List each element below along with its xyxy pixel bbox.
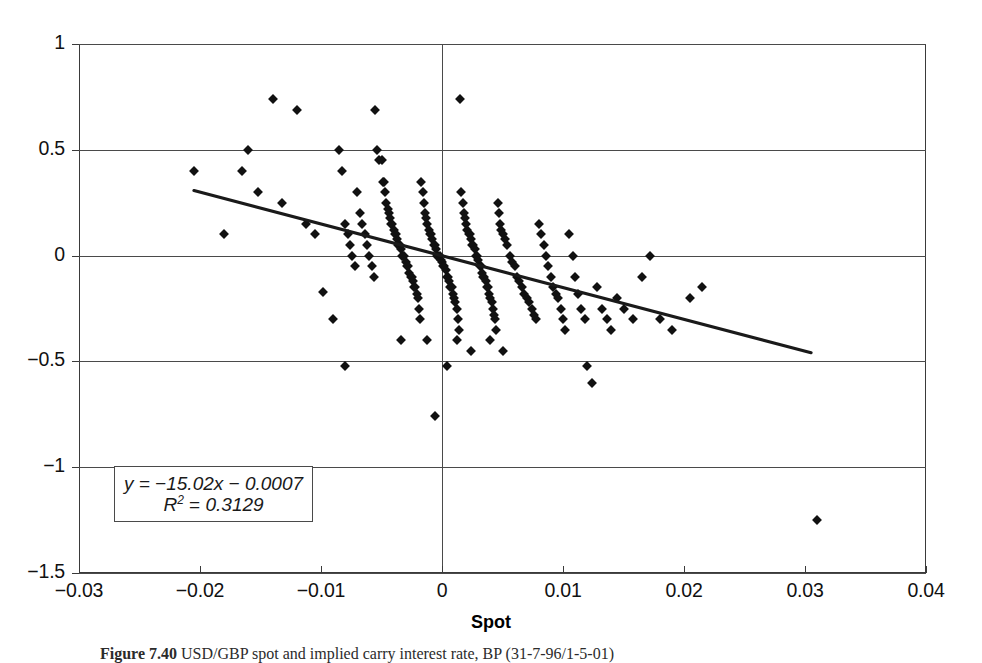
y-tick-label: 0 bbox=[1, 243, 65, 266]
x-tick-label: 0.03 bbox=[760, 579, 850, 602]
y-axis-tick bbox=[72, 361, 79, 362]
figure-container: −0.03−0.02−0.0100.010.020.030.04 10.50−0… bbox=[0, 0, 982, 663]
gridline-y bbox=[79, 573, 926, 574]
r-squared-line: R2 = 0.3129 bbox=[163, 494, 263, 516]
x-tick-label: 0.04 bbox=[881, 579, 971, 602]
y-axis-tick bbox=[72, 150, 79, 151]
x-axis-tick bbox=[926, 566, 927, 573]
y-tick-label: −1 bbox=[1, 454, 65, 477]
y-tick-label: 1 bbox=[1, 31, 65, 54]
x-tick-label: 0.01 bbox=[518, 579, 608, 602]
y-axis-tick bbox=[72, 467, 79, 468]
x-tick-label: −0.01 bbox=[276, 579, 366, 602]
regression-equation-line: y = −15.02x − 0.0007 bbox=[124, 473, 303, 494]
x-tick-label: 0.02 bbox=[639, 579, 729, 602]
x-axis-title: Spot bbox=[0, 612, 982, 633]
y-axis-tick bbox=[72, 573, 79, 574]
x-tick-label: −0.02 bbox=[155, 579, 245, 602]
x-tick-label: 0 bbox=[397, 579, 487, 602]
y-tick-label: 0.5 bbox=[1, 137, 65, 160]
regression-equation-box: y = −15.02x − 0.0007 R2 = 0.3129 bbox=[114, 466, 313, 522]
y-tick-label: −0.5 bbox=[1, 348, 65, 371]
y-tick-label: −1.5 bbox=[1, 560, 65, 583]
r-squared-value: 0.3129 bbox=[205, 494, 263, 515]
y-axis-tick bbox=[72, 44, 79, 45]
caption-text: USD/GBP spot and implied carry interest … bbox=[181, 645, 614, 662]
figure-caption: Figure 7.40 USD/GBP spot and implied car… bbox=[100, 645, 900, 663]
caption-label: Figure 7.40 bbox=[100, 645, 177, 662]
y-axis-tick bbox=[72, 256, 79, 257]
